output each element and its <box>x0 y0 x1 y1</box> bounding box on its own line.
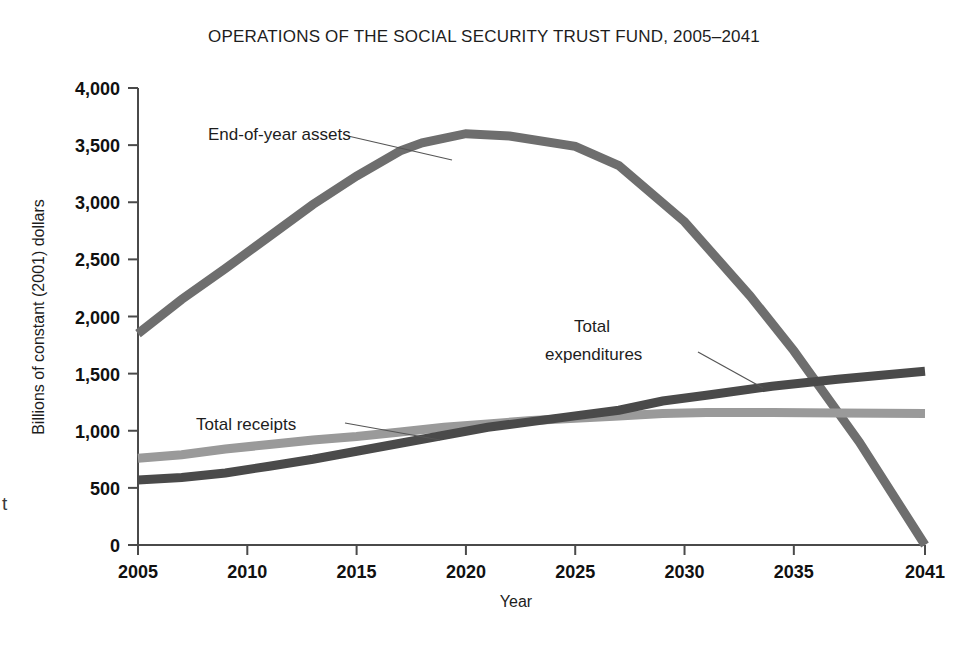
chart-svg: OPERATIONS OF THE SOCIAL SECURITY TRUST … <box>0 0 969 645</box>
y-tick-label: 2,500 <box>75 250 120 270</box>
y-axis-ticks: 05001,0001,5002,0002,5003,0003,5004,000 <box>75 79 138 556</box>
x-tick-label: 2035 <box>774 562 814 582</box>
edge-artifact-glyph: t <box>2 493 8 514</box>
x-tick-label: 2025 <box>555 562 595 582</box>
axis-lines <box>138 88 925 545</box>
chart-title: OPERATIONS OF THE SOCIAL SECURITY TRUST … <box>208 27 760 46</box>
x-tick-label: 2005 <box>118 562 158 582</box>
x-tick-label: 2030 <box>665 562 705 582</box>
leader-line-expenditures <box>698 352 763 388</box>
y-tick-label: 0 <box>110 536 120 556</box>
x-tick-label: 2015 <box>337 562 377 582</box>
annotation-total-expenditures-line2: expenditures <box>545 345 642 364</box>
y-tick-label: 2,000 <box>75 308 120 328</box>
x-tick-label: 2010 <box>227 562 267 582</box>
series-line-end-of-year-assets <box>138 134 925 545</box>
y-axis-title: Billions of constant (2001) dollars <box>30 199 47 435</box>
series-group <box>138 134 925 545</box>
x-axis-title: Year <box>500 593 533 610</box>
x-axis-ticks: 20052010201520202025203020352041 <box>118 545 945 582</box>
annotation-total-expenditures-line1: Total <box>574 317 610 336</box>
y-tick-label: 3,500 <box>75 136 120 156</box>
y-tick-label: 1,500 <box>75 365 120 385</box>
y-tick-label: 1,000 <box>75 422 120 442</box>
x-tick-label: 2041 <box>905 562 945 582</box>
x-tick-label: 2020 <box>446 562 486 582</box>
y-tick-label: 3,000 <box>75 193 120 213</box>
y-tick-label: 500 <box>90 479 120 499</box>
y-tick-label: 4,000 <box>75 79 120 99</box>
annotation-end-of-year-assets: End-of-year assets <box>208 125 351 144</box>
annotation-total-receipts: Total receipts <box>196 415 296 434</box>
chart-figure: OPERATIONS OF THE SOCIAL SECURITY TRUST … <box>0 0 969 645</box>
